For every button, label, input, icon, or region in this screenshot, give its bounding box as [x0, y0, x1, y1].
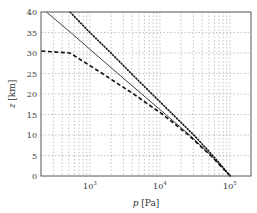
x-axis-label: p [Pa] — [133, 198, 160, 208]
x-tick-label: 103 — [83, 180, 97, 191]
y-tick-label: 0 — [32, 172, 37, 181]
y-tick-labels: 0510152025303540 — [27, 8, 37, 181]
y-tick-label: 20 — [27, 90, 37, 99]
y-tick-label: 5 — [32, 152, 37, 161]
y-tick-label: 15 — [27, 111, 37, 120]
y-tick-label: 25 — [27, 70, 37, 79]
y-tick-label: 30 — [27, 49, 37, 58]
y-tick-label: 10 — [27, 131, 37, 140]
y-axis-label: z [km] — [7, 80, 17, 110]
x-tick-labels: 103104105 — [83, 180, 237, 191]
grid — [41, 12, 251, 176]
chart: 0510152025303540 103104105 p [Pa] z [km] — [0, 0, 257, 213]
y-tick-label: 40 — [27, 8, 37, 17]
x-tick-label: 104 — [153, 180, 167, 191]
x-tick-label: 105 — [223, 180, 237, 191]
y-tick-label: 35 — [27, 29, 37, 38]
